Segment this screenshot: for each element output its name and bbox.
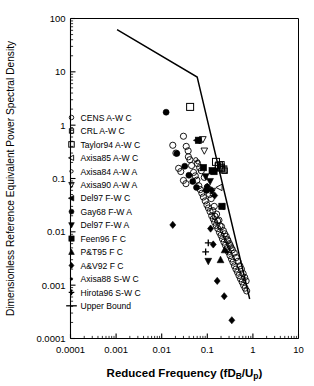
marker-triangle-left-open: [216, 184, 222, 190]
legend-label: Axisa88 S-W C: [81, 274, 139, 284]
series-hirota96-s-w-c: [202, 240, 211, 256]
marker-diamond-filled: [208, 225, 214, 232]
marker-triangle-down-open: [69, 182, 74, 187]
chart-figure: 0.00010.0010.010.11100.00010.0010.010.11…: [0, 0, 314, 386]
legend-label: Axisa90 A-W A: [81, 180, 138, 190]
marker-square-filled: [195, 137, 201, 143]
legend-item-axisa84-a-w-a[interactable]: Axisa84 A-W A: [70, 167, 138, 177]
legend-label: CRL A-W C: [81, 126, 125, 136]
y-tick-label: 0.0001: [36, 333, 65, 344]
legend-item-feen96-f-c[interactable]: Feen96 F C: [69, 234, 126, 244]
marker-triangle-up-filled: [217, 256, 224, 263]
legend-item-a-v92-f-c[interactable]: A&V92 F C: [69, 261, 123, 271]
marker-circle-open: [200, 194, 206, 200]
legend-item-axisa85-a-w-c[interactable]: Axisa85 A-W C: [69, 153, 139, 163]
legend-item-hirota96-s-w-c[interactable]: Hirota96 S-W C: [69, 288, 141, 298]
marker-square-filled: [200, 164, 206, 170]
marker-diamond-filled: [221, 293, 227, 300]
marker-plus: [202, 249, 209, 256]
legend-label: Upper Bound: [81, 301, 132, 311]
scatter-plot-svg: 0.00010.0010.010.11100.00010.0010.010.11…: [0, 0, 314, 386]
x-tick-label: 1: [250, 344, 255, 355]
x-tick-label: 0.001: [104, 344, 128, 355]
marker-square-filled: [69, 236, 74, 241]
marker-triangle-up-filled: [69, 249, 75, 254]
marker-triangle-down-filled: [69, 223, 75, 228]
legend-item-crl-a-w-c[interactable]: CRL A-W C: [69, 126, 124, 136]
marker-square-open-large: [187, 103, 194, 110]
marker-plus: [69, 290, 75, 296]
legend-label: Taylor94 A-W C: [81, 140, 141, 150]
y-axis-label: Dimensionless Reference Equivalent Power…: [5, 40, 16, 316]
legend-item-upper-bound[interactable]: Upper Bound: [66, 301, 131, 311]
marker-triangle-left-open: [69, 155, 74, 160]
marker-circle-open: [188, 162, 194, 168]
marker-triangle-left-filled: [68, 195, 73, 201]
y-tick-label: 1: [60, 120, 65, 131]
marker-circle-filled: [174, 150, 180, 156]
marker-dot-small: [226, 250, 229, 253]
marker-circle-filled: [194, 184, 200, 190]
series-cens-a-w-c: [170, 133, 250, 294]
marker-diamond-filled: [229, 317, 235, 324]
marker-diamond-filled: [170, 221, 176, 228]
legend-item-axisa90-a-w-a[interactable]: Axisa90 A-W A: [69, 180, 138, 190]
marker-diamond-filled: [214, 277, 220, 284]
legend-label: Gay68 F-W A: [81, 207, 133, 217]
legend-label: Hirota96 S-W C: [81, 288, 141, 298]
marker-circle-open: [211, 203, 217, 209]
legend-item-del97-f-w-c[interactable]: Del97 F-W C: [68, 193, 130, 203]
legend-label: Del97 F-W C: [81, 193, 131, 203]
marker-triangle-down-open: [201, 148, 208, 154]
marker-circle-open: [202, 198, 208, 204]
legend-item-p-t95-f-c[interactable]: P&T95 F C: [69, 247, 123, 257]
legend-item-gay68-f-w-a[interactable]: Gay68 F-W A: [69, 207, 132, 217]
legend-item-taylor94-a-w-c[interactable]: Taylor94 A-W C: [69, 140, 140, 150]
legend-label: Feen96 F C: [81, 234, 126, 244]
marker-diamond-filled: [210, 241, 216, 248]
marker-triangle-down-filled: [205, 258, 212, 265]
marker-circle-open: [69, 115, 73, 119]
marker-dot-small: [70, 278, 72, 280]
marker-circle-filled: [186, 172, 192, 178]
marker-square-filled: [211, 168, 217, 174]
marker-circle-filled: [190, 178, 196, 184]
y-tick-label: 100: [50, 13, 66, 24]
marker-circle-filled: [69, 209, 74, 214]
y-tick-label: 10: [55, 66, 66, 77]
legend: CENS A-W CCRL A-W CTaylor94 A-W CAxisa85…: [66, 113, 141, 311]
legend-item-cens-a-w-c[interactable]: CENS A-W C: [69, 113, 131, 123]
legend-label: P&T95 F C: [81, 247, 124, 257]
marker-circle-open: [180, 133, 186, 139]
marker-circle-open: [170, 142, 176, 148]
x-axis-label: Reduced Frequency (fDB/Up): [107, 367, 263, 381]
legend-label: A&V92 F C: [81, 261, 124, 271]
x-tick-label: 10: [293, 344, 304, 355]
marker-square-filled: [219, 203, 225, 209]
x-tick-label: 0.0001: [56, 344, 85, 355]
y-tick-label: 0.01: [47, 226, 66, 237]
marker-circle-filled: [163, 109, 169, 115]
legend-label: CENS A-W C: [81, 113, 132, 123]
y-tick-label: 0.001: [42, 280, 66, 291]
legend-label: Axisa85 A-W C: [81, 153, 139, 163]
legend-item-del97-f-w-a[interactable]: Del97 F-W A: [69, 220, 130, 230]
marker-diamond-filled: [69, 262, 74, 268]
y-tick-label: 0.1: [52, 173, 65, 184]
x-tick-label: 0.1: [201, 344, 214, 355]
x-tick-label: 0.01: [152, 344, 171, 355]
legend-item-axisa88-s-w-c[interactable]: Axisa88 S-W C: [70, 274, 138, 284]
legend-label: Del97 F-W A: [81, 220, 130, 230]
legend-label: Axisa84 A-W A: [81, 167, 138, 177]
marker-circle-filled: [182, 163, 188, 169]
